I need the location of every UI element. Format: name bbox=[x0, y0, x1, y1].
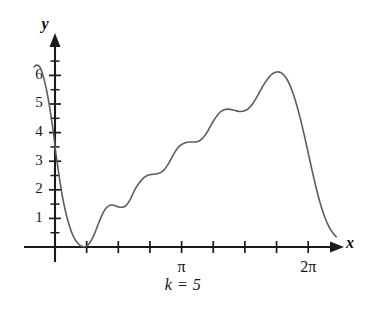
plot-canvas: 123456 π2π x y bbox=[0, 0, 366, 317]
figure-container: 123456 π2π x y k = 5 bbox=[0, 0, 366, 317]
x-tick-label: π bbox=[178, 258, 186, 275]
y-tick-label: 4 bbox=[35, 123, 43, 139]
x-tick-label: 2π bbox=[300, 258, 316, 275]
y-axis-tick-labels: 123456 bbox=[35, 66, 43, 225]
y-axis-arrow-icon bbox=[50, 33, 61, 47]
x-axis-label: x bbox=[345, 234, 354, 251]
figure-caption: k = 5 bbox=[0, 276, 366, 294]
y-tick-label: 1 bbox=[35, 209, 43, 225]
y-tick-label: 3 bbox=[35, 152, 43, 168]
y-tick-label: 5 bbox=[35, 94, 43, 110]
y-axis-label: y bbox=[39, 15, 49, 33]
y-tick-label: 2 bbox=[35, 180, 43, 196]
x-axis-tick-labels: π2π bbox=[178, 258, 317, 275]
data-curve bbox=[34, 65, 336, 247]
x-axis-arrow-icon bbox=[330, 242, 344, 253]
